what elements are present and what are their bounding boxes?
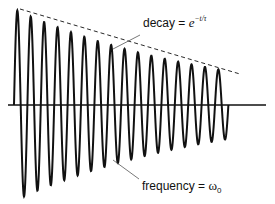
decay-envelope-dashed-line <box>20 9 240 74</box>
decay-label-prefix: decay = <box>143 16 189 30</box>
oscillation-curve <box>14 11 228 197</box>
frequency-leader-line <box>113 160 139 179</box>
frequency-label-subscript: 0 <box>217 186 221 195</box>
decay-label-exponent: −t/τ <box>194 14 206 23</box>
frequency-label: frequency = ω0 <box>142 178 221 195</box>
frequency-label-prefix: frequency = <box>142 179 208 193</box>
damped-oscillation-diagram <box>0 0 275 204</box>
decay-leader-line <box>113 35 140 49</box>
decay-label: decay = e−t/τ <box>143 15 206 31</box>
frequency-label-symbol: ω <box>208 178 217 193</box>
